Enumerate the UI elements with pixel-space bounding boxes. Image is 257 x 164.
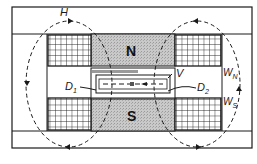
- label-dee-1: D1: [65, 80, 77, 94]
- label-field-h: H: [60, 6, 68, 18]
- coil-top-left: [48, 35, 91, 66]
- magnet-diagram: H V D1 D2 WN WS N S: [0, 0, 257, 164]
- label-pole-south: S: [127, 108, 136, 124]
- label-dee-2: D2: [197, 81, 209, 95]
- coil-top-right: [175, 35, 221, 66]
- label-winding-north: WN: [223, 67, 238, 80]
- vacuum-chamber: [91, 68, 175, 98]
- label-vacuum-v: V: [176, 67, 185, 79]
- coil-bottom-left: [48, 98, 91, 130]
- coil-bottom-right: [175, 98, 221, 130]
- label-winding-south: WS: [223, 96, 237, 109]
- label-pole-north: N: [126, 43, 136, 59]
